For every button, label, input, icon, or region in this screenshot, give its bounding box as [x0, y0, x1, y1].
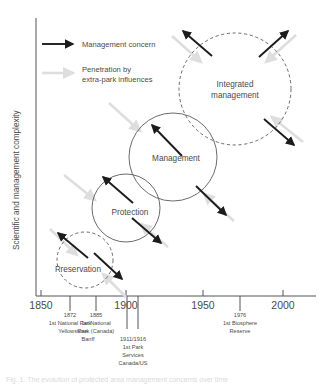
bubble-label-management: Management — [152, 154, 201, 163]
event-desc-1911-line3: Canada/US — [119, 360, 148, 366]
legend-label-management-concern: Management concern — [82, 40, 155, 49]
event-desc-1976-line1: 1st Biosphere — [223, 320, 257, 326]
concern-arrow-integrated-upper-right — [259, 31, 288, 57]
event-desc-1976-line2: Reserve — [230, 328, 251, 334]
event-desc-1911-line1: 1st Park — [123, 344, 144, 350]
event-desc-1911-line2: Services — [122, 352, 144, 358]
event-desc-1885-line3: Banff — [82, 336, 95, 342]
concern-arrow-preservation-upper-left — [58, 233, 88, 258]
concern-arrow-integrated-upper-left — [183, 31, 212, 56]
event-marker-1885: 1885 1st National Park (Canada) Banff — [78, 296, 115, 342]
figure-container: Scientific and management complexity 185… — [0, 0, 321, 384]
legend-label-penetration-line2: extra-park influences — [82, 75, 153, 84]
x-axis-major-ticks — [41, 290, 283, 296]
y-axis-title: Scientific and management complexity — [12, 109, 21, 250]
event-desc-1885-line1: 1st National — [81, 320, 111, 326]
x-tick-label-1850: 1850 — [29, 299, 53, 311]
penetration-arrow-integrated-upper-left — [172, 36, 201, 62]
evolution-of-park-management-diagram: Scientific and management complexity 185… — [0, 0, 321, 384]
event-year-1911-1916: 1911/1916 — [120, 336, 146, 342]
bubble-label-preservation: Preservation — [55, 265, 101, 274]
penetration-arrow-protection-lower-right — [141, 224, 168, 247]
bubble-label-integrated-management-line1: Integrated — [217, 80, 254, 89]
event-year-1976: 1976 — [234, 312, 246, 318]
legend-label-penetration-line1: Penetration by — [82, 65, 131, 74]
legend: Management concern Penetration by extra-… — [42, 40, 155, 84]
event-year-1885: 1885 — [90, 312, 102, 318]
bubble-label-protection: Protection — [112, 208, 149, 217]
bubble-label-integrated-management-line2: management — [211, 91, 260, 100]
penetration-arrow-management-upper-left — [109, 103, 140, 131]
x-tick-label-1900: 1900 — [114, 299, 138, 311]
x-tick-label-1950: 1950 — [191, 299, 215, 311]
event-marker-1976: 1976 1st Biosphere Reserve — [223, 296, 257, 334]
event-desc-1885-line2: Park (Canada) — [78, 328, 115, 334]
x-tick-label-2000: 2000 — [271, 299, 295, 311]
figure-caption: Fig. 1. The evolution of protected area … — [6, 376, 228, 384]
event-year-1872: 1872 — [64, 312, 76, 318]
concern-arrow-management-lower-right — [196, 186, 226, 215]
concern-arrow-protection-upper-left — [103, 177, 133, 203]
concern-arrow-management-upper-left — [152, 125, 182, 156]
penetration-arrow-integrated-upper-right — [266, 35, 296, 62]
penetration-arrow-protection-upper-left — [64, 175, 95, 200]
